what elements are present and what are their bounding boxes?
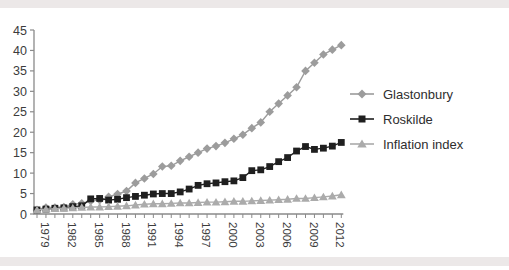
x-tick-label: 1991 [146, 222, 158, 248]
x-tick-label: 1982 [66, 222, 78, 248]
square-marker [231, 177, 238, 184]
square-marker [123, 194, 130, 201]
diamond-marker [185, 152, 194, 161]
square-marker [168, 190, 175, 197]
diamond-marker [221, 139, 230, 148]
square-marker [222, 178, 229, 185]
square-marker [311, 146, 318, 153]
diamond-marker [203, 144, 212, 153]
square-marker [177, 189, 184, 196]
square-marker [132, 193, 139, 200]
y-tick-label: 5 [20, 187, 27, 201]
diamond-marker [167, 161, 176, 170]
square-marker [114, 196, 121, 203]
y-tick-label: 20 [13, 126, 27, 140]
y-tick-label: 35 [13, 64, 27, 78]
glastonbury-diamond-marker-icon [349, 88, 375, 100]
y-tick-label: 15 [13, 146, 27, 160]
x-tick-label: 1979 [39, 222, 51, 248]
x-tick-label: 2009 [308, 222, 320, 248]
legend-label-roskilde: Roskilde [383, 112, 433, 127]
square-marker [293, 148, 300, 155]
x-tick-label: 1985 [93, 222, 105, 248]
square-marker [204, 180, 211, 187]
y-tick-label: 25 [13, 105, 27, 119]
x-tick-label: 1988 [120, 222, 132, 248]
y-tick-label: 30 [13, 85, 27, 99]
diamond-marker [337, 41, 346, 50]
square-marker [248, 167, 255, 174]
x-tick-label: 2012 [334, 222, 346, 248]
square-marker [87, 195, 94, 202]
square-marker [186, 186, 193, 193]
square-marker [213, 180, 220, 187]
series-line [37, 45, 341, 210]
square-marker [275, 158, 282, 165]
diamond-marker [328, 45, 337, 54]
y-tick-label: 40 [13, 44, 27, 58]
square-marker [195, 182, 202, 189]
x-tick-label: 1997 [200, 222, 212, 248]
x-tick-label: 2000 [227, 222, 239, 248]
y-tick-label: 10 [13, 167, 27, 181]
square-marker [266, 163, 273, 170]
square-marker [96, 195, 103, 202]
legend-entry-inflation-index: Inflation index [349, 136, 504, 152]
x-tick-label: 2006 [281, 222, 293, 248]
square-marker [257, 166, 264, 173]
square-marker [320, 145, 327, 152]
x-tick-label: 2003 [254, 222, 266, 248]
roskilde-square-marker-icon [349, 113, 375, 125]
square-marker [338, 139, 345, 146]
diamond-marker [140, 174, 149, 183]
inflation-index-triangle-marker-icon [349, 138, 375, 150]
square-marker [239, 174, 246, 181]
diamond-marker [176, 157, 185, 166]
square-marker [141, 192, 148, 199]
legend-label-glastonbury: Glastonbury [383, 87, 453, 102]
diamond-marker [230, 134, 239, 143]
chart-legend: Glastonbury Roskilde Inflation index [349, 86, 504, 161]
legend-entry-glastonbury: Glastonbury [349, 86, 504, 102]
diamond-marker [212, 142, 221, 151]
triangle-marker [337, 191, 346, 199]
square-marker [302, 143, 309, 150]
square-marker [284, 154, 291, 161]
diamond-marker [194, 148, 203, 157]
legend-label-inflation-index: Inflation index [383, 137, 463, 152]
square-marker [159, 190, 166, 197]
x-tick-label: 1994 [173, 222, 185, 248]
y-tick-label: 45 [13, 24, 27, 38]
legend-entry-roskilde: Roskilde [349, 111, 504, 127]
y-tick-label: 0 [20, 208, 27, 222]
square-marker [329, 143, 336, 150]
square-marker [150, 191, 157, 198]
